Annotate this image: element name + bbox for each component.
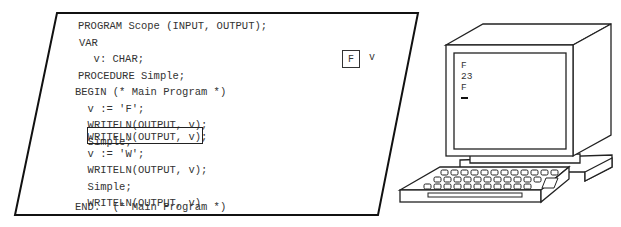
code-line: v := 'W'; <box>75 148 144 160</box>
code-line-highlighted: WRITELN(OUTPUT, v); <box>75 131 207 143</box>
code-line: END. (* Main Program *) <box>75 201 226 213</box>
code-line: Simple; <box>75 181 132 193</box>
code-line: v: CHAR; <box>81 53 144 65</box>
code-line: WRITELN(OUTPUT, v); <box>75 164 207 176</box>
terminal-output-line: F <box>461 82 467 93</box>
code-line: v := 'F'; <box>75 103 144 115</box>
code-line: PROCEDURE Simple; <box>78 70 185 82</box>
terminal-output-line: 23 <box>461 71 472 82</box>
scope-diagram: PROGRAM Scope (INPUT, OUTPUT); VAR v: CH… <box>0 0 621 227</box>
variable-value-box: F <box>342 50 360 68</box>
code-line: PROGRAM Scope (INPUT, OUTPUT); <box>78 20 267 32</box>
code-line: BEGIN (* Main Program *) <box>75 86 226 98</box>
code-line: VAR <box>79 37 98 49</box>
terminal-cursor <box>461 97 468 99</box>
variable-name-label: v <box>369 52 375 63</box>
terminal-output-line: F <box>461 60 467 71</box>
